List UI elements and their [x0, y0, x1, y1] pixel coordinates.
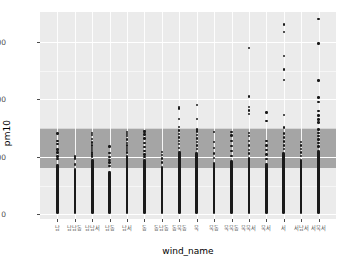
x-axis-tick-label: 서북서 — [311, 224, 326, 231]
data-point — [143, 153, 145, 155]
data-point — [196, 130, 198, 132]
gridline-y-major — [40, 157, 336, 158]
data-strip — [91, 159, 94, 215]
y-axis-tick-label: 0 — [1, 210, 6, 219]
x-axis-tick-mark — [284, 219, 285, 222]
data-point — [265, 111, 267, 113]
x-axis-tick-label: 동남동 — [154, 224, 169, 231]
x-axis-tick-mark — [92, 219, 93, 222]
data-point — [56, 151, 58, 153]
data-point — [108, 156, 110, 158]
x-axis-tick-label: 북서 — [261, 224, 271, 231]
data-strip — [265, 163, 268, 215]
data-point — [248, 109, 250, 111]
gridline-y-minor — [40, 71, 336, 72]
data-point — [283, 23, 285, 25]
data-point — [126, 144, 128, 146]
data-point — [283, 148, 285, 150]
data-point — [317, 128, 319, 130]
x-axis-tick-label: 북 — [194, 224, 199, 231]
data-point — [265, 153, 267, 155]
data-point — [248, 144, 250, 146]
data-point — [317, 96, 319, 98]
data-point — [230, 140, 232, 142]
data-strip — [143, 159, 146, 214]
data-point — [265, 140, 267, 142]
data-point — [126, 151, 128, 153]
data-point — [283, 140, 285, 142]
data-point — [317, 121, 319, 123]
x-axis-tick-mark — [75, 219, 76, 222]
data-point — [265, 144, 267, 146]
data-point — [283, 136, 285, 138]
gridline-y-major — [40, 214, 336, 215]
x-axis-tick-label: 서 — [281, 224, 286, 231]
data-point — [283, 79, 285, 81]
x-axis-tick-label: 북동 — [209, 224, 219, 231]
x-axis-title: wind_name — [40, 244, 336, 258]
data-point — [56, 132, 58, 134]
y-axis-tick-label: 200 — [0, 95, 6, 104]
gridline-y-minor — [40, 128, 336, 129]
pm10-bad-range-band — [40, 128, 336, 168]
gridline-y-major — [40, 99, 336, 100]
data-point — [196, 144, 198, 146]
x-axis-tick-mark — [197, 219, 198, 222]
x-axis-tick-label: 남서 — [122, 224, 132, 231]
y-axis-tick-mark — [37, 42, 40, 43]
x-axis-tick-label: 남남서 — [85, 224, 100, 231]
data-point — [196, 148, 198, 150]
data-strip — [178, 151, 181, 214]
data-point — [56, 148, 58, 150]
data-point — [248, 152, 250, 154]
data-strip — [282, 152, 285, 214]
plot-panel — [40, 12, 336, 219]
data-strip — [230, 160, 233, 215]
data-point — [265, 149, 267, 151]
data-point — [317, 18, 319, 20]
data-point — [74, 155, 76, 157]
data-strip — [195, 152, 198, 214]
x-axis-tick-label: 남 — [55, 224, 60, 231]
data-point — [108, 159, 110, 161]
data-strip — [74, 168, 77, 214]
y-axis-tick-mark — [37, 214, 40, 215]
x-axis-tick-mark — [144, 219, 145, 222]
data-strip — [56, 164, 59, 215]
data-strip — [317, 150, 320, 214]
x-axis-tick-mark — [162, 219, 163, 222]
x-axis-tick-label: 동북동 — [172, 224, 187, 231]
data-point — [317, 138, 319, 140]
x-axis-tick-mark — [319, 219, 320, 222]
data-point — [161, 161, 163, 163]
x-axis-tick-mark — [57, 219, 58, 222]
x-axis-tick-mark — [266, 219, 267, 222]
data-point — [143, 142, 145, 144]
data-point — [317, 42, 319, 44]
data-point — [248, 132, 250, 134]
data-point — [196, 141, 198, 143]
data-point — [317, 132, 319, 134]
data-point — [143, 133, 145, 135]
x-axis-tick-label: 북북서 — [241, 224, 256, 231]
x-axis-tick-mark — [110, 219, 111, 222]
data-strip — [126, 155, 129, 215]
data-point — [230, 145, 232, 147]
gridline-y-major — [40, 42, 336, 43]
data-strip — [161, 166, 164, 215]
data-point — [56, 140, 58, 142]
data-point — [143, 137, 145, 139]
y-axis-tick-mark — [37, 157, 40, 158]
data-strip — [108, 171, 111, 215]
x-axis-tick-mark — [214, 219, 215, 222]
data-point — [230, 134, 232, 136]
x-axis-tick-label: 남남동 — [67, 224, 82, 231]
data-point — [108, 161, 110, 163]
data-point — [283, 144, 285, 146]
data-point — [161, 151, 163, 153]
data-point — [283, 126, 285, 128]
chart-figure: pm10 wind_name 0100200300남남남동남남서남동남서동동남동… — [0, 0, 350, 266]
data-point — [74, 157, 76, 159]
data-point — [143, 156, 145, 158]
data-point — [317, 110, 319, 112]
